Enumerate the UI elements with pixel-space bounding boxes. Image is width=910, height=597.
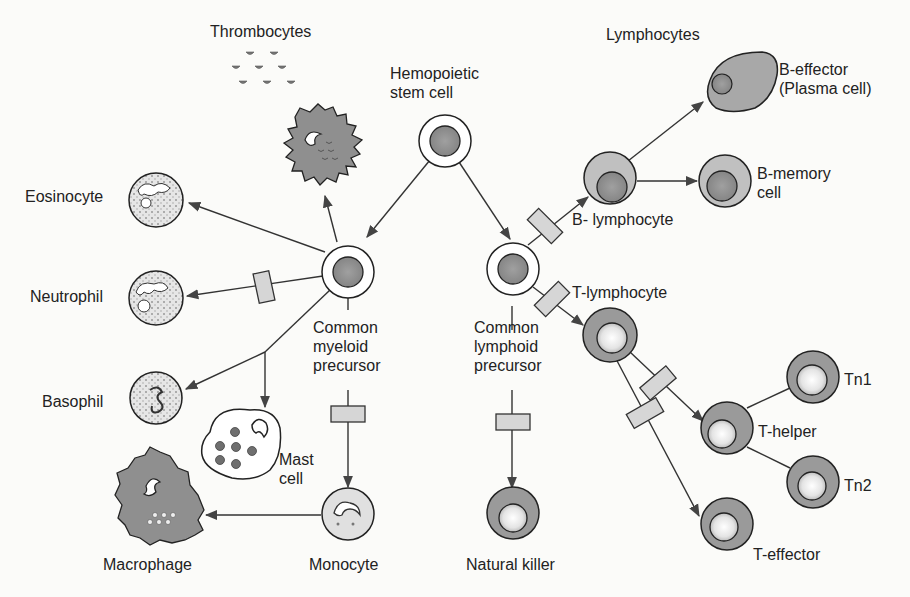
edge-b-to-b-effector <box>628 102 703 161</box>
label-natural-killer: Natural killer <box>466 555 555 574</box>
label-tn1: Tn1 <box>844 370 872 389</box>
neutrophil-cell <box>129 271 183 325</box>
common-myeloid-precursor-cell <box>322 246 374 298</box>
megakaryocyte-cell <box>284 104 362 185</box>
edge-branch-to-basophil <box>186 352 265 389</box>
factor-box-neutrophil <box>253 271 275 304</box>
thrombocytes-cluster <box>232 52 295 84</box>
label-t-helper: T-helper <box>758 422 817 441</box>
label-basophil: Basophil <box>42 392 103 411</box>
edge-stem-to-myeloid <box>367 160 430 237</box>
label-t-effector: T-effector <box>753 545 820 564</box>
tn2-cell <box>787 456 839 508</box>
label-hemopoietic-stem-cell: Hemopoietic stem cell <box>390 64 479 102</box>
t-lymphocyte-cell <box>583 308 637 362</box>
eosinocyte-cell <box>129 173 183 227</box>
label-common-lymphoid-precursor: Common lymphoid precursor <box>474 318 542 375</box>
edge-myeloid-to-eosinocyte <box>189 203 325 252</box>
label-b-effector: B-effector (Plasma cell) <box>779 60 871 98</box>
macrophage-cell <box>115 447 204 545</box>
mast-cell <box>202 409 281 479</box>
edge-t-helper-to-tn2 <box>747 447 790 468</box>
label-b-lymphocyte: B- lymphocyte <box>572 210 673 229</box>
factor-box-natural-killer <box>496 414 530 430</box>
b-memory-cell <box>699 155 751 207</box>
label-eosinocyte: Eosinocyte <box>25 187 103 206</box>
label-monocyte: Monocyte <box>309 555 378 574</box>
edge-stem-to-lymphoid <box>459 162 510 239</box>
basophil-cell <box>130 372 182 424</box>
label-neutrophil: Neutrophil <box>30 287 103 306</box>
t-effector-cell <box>701 498 753 550</box>
factor-box-monocyte <box>331 406 365 422</box>
b-effector-plasma-cell <box>708 52 778 112</box>
hemopoietic-stem-cell <box>419 115 471 167</box>
label-mast-cell: Mast cell <box>279 450 314 488</box>
factor-box-t-helper <box>640 366 676 400</box>
common-lymphoid-precursor-cell <box>487 243 539 295</box>
tn1-cell <box>787 351 839 403</box>
label-macrophage: Macrophage <box>103 555 192 574</box>
label-t-lymphocyte: T-lymphocyte <box>572 283 667 302</box>
t-helper-cell <box>701 402 753 454</box>
factor-box-b-lymphocyte <box>527 208 562 243</box>
edge-t-helper-to-tn1 <box>747 388 790 408</box>
label-b-memory: B-memory cell <box>757 164 831 202</box>
label-lymphocytes: Lymphocytes <box>606 25 700 44</box>
label-tn2: Tn2 <box>844 476 872 495</box>
edge-myeloid-to-megakaryocyte <box>325 196 337 242</box>
factor-box-t-effector <box>626 398 663 429</box>
label-thrombocytes: Thrombocytes <box>210 22 311 41</box>
label-common-myeloid-precursor: Common myeloid precursor <box>313 318 381 375</box>
natural-killer-cell <box>487 487 539 539</box>
b-lymphocyte-cell <box>584 152 636 204</box>
monocyte-cell <box>322 488 374 540</box>
